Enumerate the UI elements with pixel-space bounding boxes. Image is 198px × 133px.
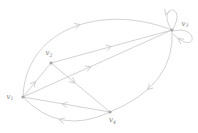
node-label-v1: v1 xyxy=(7,93,14,102)
graph-canvas: v1v2v3v4 xyxy=(0,0,198,133)
arrowhead-icon-e9 xyxy=(163,9,170,16)
node-v3 xyxy=(170,28,173,31)
edge-e2-v1-to-v3 xyxy=(23,30,172,97)
edge-e8-v4-to-v1 xyxy=(23,97,110,121)
edge-e5-v2-to-v4 xyxy=(51,63,110,112)
edge-e3-v1-to-v3 xyxy=(23,19,172,97)
edge-e1-v1-to-v2 xyxy=(23,63,51,97)
node-v2 xyxy=(49,61,52,64)
edge-e10-v3-to-v3 xyxy=(173,30,192,43)
node-label-v2: v2 xyxy=(46,49,53,58)
graph-figure: v1v2v3v4 xyxy=(0,0,198,133)
node-v4 xyxy=(108,110,111,113)
edge-e6-v3-to-v4 xyxy=(110,30,172,112)
node-label-v3: v3 xyxy=(182,20,189,29)
node-v1 xyxy=(21,95,24,98)
node-label-v4: v4 xyxy=(109,116,116,125)
edge-e7-v4-to-v1 xyxy=(23,97,110,112)
